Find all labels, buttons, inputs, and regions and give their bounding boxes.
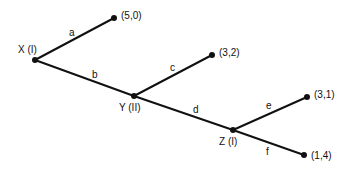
labels-group: abcdefX (I)Y (II)Z (I)(5,0)(3,2)(3,1)(1,… (18, 10, 335, 161)
edge-a (35, 18, 114, 60)
terminal-node (209, 52, 215, 58)
edge-label-b: b (92, 69, 98, 80)
game-tree-diagram: abcdefX (I)Y (II)Z (I)(5,0)(3,2)(3,1)(1,… (0, 0, 352, 172)
payoff-label: (1,4) (311, 150, 332, 161)
edge-d (134, 96, 233, 130)
payoff-label: (5,0) (121, 10, 142, 21)
terminal-node (304, 94, 310, 100)
terminal-node (111, 15, 117, 21)
edge-label-e: e (266, 100, 272, 111)
edge-label-a: a (69, 27, 75, 38)
decision-node-z (230, 127, 236, 133)
node-label-x: X (I) (18, 44, 37, 55)
decision-node-y (131, 93, 137, 99)
edge-label-c: c (170, 62, 175, 73)
terminal-node (301, 152, 307, 158)
node-label-y: Y (II) (119, 102, 140, 113)
edge-label-d: d (193, 104, 199, 115)
decision-node-x (32, 57, 38, 63)
edge-label-f: f (266, 146, 269, 157)
edges-group (35, 18, 307, 155)
node-label-z: Z (I) (219, 136, 237, 147)
payoff-label: (3,2) (219, 47, 240, 58)
payoff-label: (3,1) (314, 89, 335, 100)
edge-b (35, 60, 134, 96)
